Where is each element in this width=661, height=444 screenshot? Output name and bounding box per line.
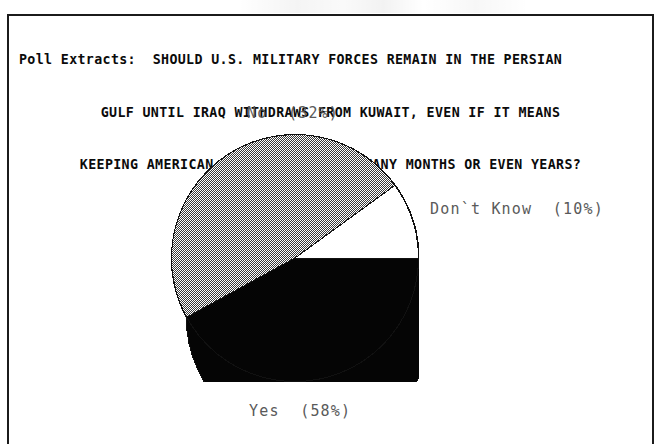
- chart-title-line-1: Poll Extracts: SHOULD U.S. MILITARY FORC…: [9, 51, 652, 69]
- pie-label-yes: Yes (58%): [249, 402, 351, 420]
- pie-label-dont-know: Don`t Know (10%): [430, 200, 604, 218]
- pie-label-no: No (32%): [247, 104, 339, 122]
- scan-noise: [0, 0, 661, 13]
- pie-chart: [171, 134, 419, 382]
